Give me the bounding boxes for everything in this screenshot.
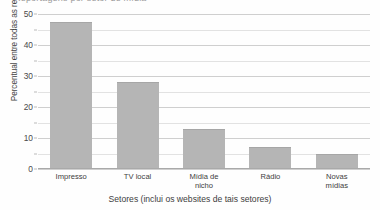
gridline-major	[38, 169, 370, 170]
x-axis-category-labels: ImpressoTV localMídia denichoRádioNovasm…	[38, 172, 370, 196]
bar[interactable]	[249, 147, 291, 169]
x-axis-category-label-line: mídias	[304, 181, 370, 190]
x-axis-category-label-line: Mídia de	[171, 172, 237, 181]
bars-group	[38, 14, 370, 169]
y-tick-mark-minor	[34, 91, 37, 92]
y-tick-mark	[34, 107, 37, 108]
cut-off-title: Reportagens por setor de mídia	[0, 0, 380, 7]
x-axis-category-label-line: TV local	[104, 172, 170, 181]
x-axis-category-label: TV local	[104, 172, 170, 181]
x-axis-category-label: Rádio	[237, 172, 303, 181]
y-tick-label: 10	[24, 133, 33, 143]
bar-slot	[171, 14, 237, 169]
x-axis-line	[38, 168, 370, 169]
x-axis-category-label-line: Impresso	[38, 172, 104, 181]
y-tick-label: 0	[28, 164, 33, 174]
bar-slot	[237, 14, 303, 169]
bar[interactable]	[316, 154, 358, 170]
bar[interactable]	[117, 82, 159, 169]
x-axis-title: Setores (inclui os websites de tais seto…	[0, 194, 380, 204]
y-tick-mark	[34, 45, 37, 46]
y-tick-mark-minor	[34, 122, 37, 123]
bar[interactable]	[50, 22, 92, 169]
x-axis-category-label: Impresso	[38, 172, 104, 181]
y-tick-label: 50	[24, 9, 33, 19]
y-tick-mark	[34, 138, 37, 139]
x-axis-category-label-line: Rádio	[237, 172, 303, 181]
y-tick-label: 20	[24, 102, 33, 112]
y-tick-label: 30	[24, 71, 33, 81]
x-axis-category-label-line: nicho	[171, 181, 237, 190]
x-axis-category-label: Mídia denicho	[171, 172, 237, 191]
y-tick-mark	[34, 14, 37, 15]
cut-off-title-text: Reportagens por setor de mídia	[14, 0, 147, 3]
y-tick-mark	[34, 169, 37, 170]
bar-slot	[304, 14, 370, 169]
y-tick-mark-minor	[34, 60, 37, 61]
y-tick-mark	[34, 76, 37, 77]
plot-area: 01020304050	[38, 14, 370, 169]
y-tick-mark-minor	[34, 29, 37, 30]
y-axis-title: Percentual entre todas as reportagens	[10, 0, 19, 113]
x-axis-category-label: Novasmídias	[304, 172, 370, 191]
y-tick-mark-minor	[34, 153, 37, 154]
y-tick-label: 40	[24, 40, 33, 50]
bar[interactable]	[183, 129, 225, 169]
bar-slot	[38, 14, 104, 169]
bar-chart-figure: Reportagens por setor de mídia Percentua…	[0, 0, 380, 210]
x-axis-category-label-line: Novas	[304, 172, 370, 181]
bar-slot	[104, 14, 170, 169]
